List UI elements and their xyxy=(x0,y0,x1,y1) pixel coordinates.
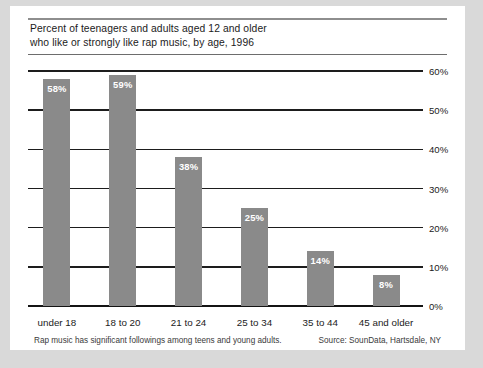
plot-area: 0%10%20%30%40%50%60% 58%59%38%25%14%8% u… xyxy=(28,71,423,306)
y-tick-label-20pct: 20% xyxy=(429,222,448,233)
x-label-under-18: under 18 xyxy=(38,317,77,328)
x-label-25-to-34: 25 to 34 xyxy=(237,317,272,328)
bar-value-label: 8% xyxy=(373,279,400,290)
chart-card: Percent of teenagers and adults aged 12 … xyxy=(10,6,465,350)
chart-footnote: Rap music has significant followings amo… xyxy=(34,336,282,345)
bar-value-label: 14% xyxy=(307,255,334,266)
bar-21-to-24: 38% xyxy=(175,157,202,306)
y-tick-label-50pct: 50% xyxy=(429,105,448,116)
y-tick-label-0pct: 0% xyxy=(429,301,443,312)
x-label-21-to-24: 21 to 24 xyxy=(171,317,206,328)
bar-45-and-older: 8% xyxy=(373,275,400,306)
x-label-45-and-older: 45 and older xyxy=(359,317,413,328)
y-tick-label-60pct: 60% xyxy=(429,66,448,77)
bar-value-label: 25% xyxy=(241,212,268,223)
bar-value-label: 38% xyxy=(175,161,202,172)
bar-chart: 0%10%20%30%40%50%60% 58%59%38%25%14%8% u… xyxy=(28,64,447,322)
bar-series: 58%59%38%25%14%8% xyxy=(28,71,423,306)
chart-source: Source: SounData, Hartsdale, NY xyxy=(319,336,441,345)
bar-25-to-34: 25% xyxy=(241,208,268,306)
chart-title-line-1: Percent of teenagers and adults aged 12 … xyxy=(30,22,430,36)
chart-title: Percent of teenagers and adults aged 12 … xyxy=(30,22,430,49)
y-tick-label-10pct: 10% xyxy=(429,261,448,272)
bar-35-to-44: 14% xyxy=(307,251,334,306)
x-label-18-to-20: 18 to 20 xyxy=(105,317,140,328)
y-tick-label-30pct: 30% xyxy=(429,183,448,194)
bar-under-18: 58% xyxy=(43,79,70,306)
bar-value-label: 59% xyxy=(109,79,136,90)
header-rule-bottom xyxy=(28,54,447,55)
screenshot-page: Percent of teenagers and adults aged 12 … xyxy=(0,0,483,368)
header-rule-top xyxy=(28,18,447,20)
chart-title-line-2: who like or strongly like rap music, by … xyxy=(30,36,430,50)
x-label-35-to-44: 35 to 44 xyxy=(303,317,338,328)
bar-value-label: 58% xyxy=(43,83,70,94)
bar-18-to-20: 59% xyxy=(109,75,136,306)
y-tick-label-40pct: 40% xyxy=(429,144,448,155)
